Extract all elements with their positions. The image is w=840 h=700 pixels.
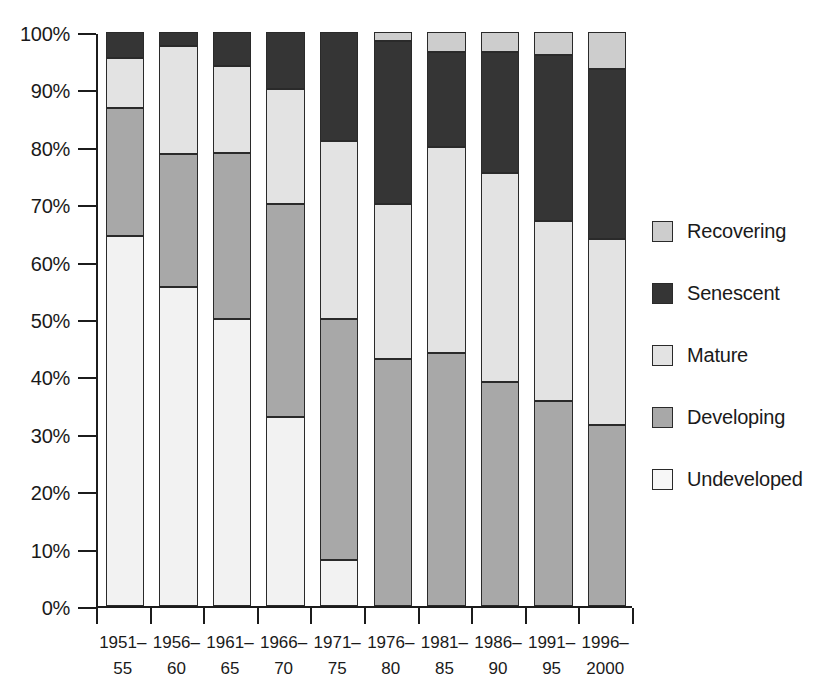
x-axis-tick-mark <box>471 608 473 624</box>
legend-item-label: Senescent <box>687 282 780 305</box>
x-axis-label-line1: 1961– <box>206 630 253 656</box>
legend-item: Senescent <box>652 262 837 324</box>
x-axis-tick-label: 1961–65 <box>206 630 253 683</box>
x-axis-label-line1: 1966– <box>260 630 307 656</box>
stacked-bar-chart: 0%10%20%30%40%50%60%70%80%90%100% 1951–5… <box>0 0 840 700</box>
x-axis-label-line2: 55 <box>99 656 146 682</box>
x-axis-tick-label: 1966–70 <box>260 630 307 683</box>
legend-item-label: Undeveloped <box>687 468 803 491</box>
x-axis-label-line1: 1956– <box>153 630 200 656</box>
x-axis-label-line2: 90 <box>474 656 521 682</box>
legend-swatch-icon <box>652 469 673 490</box>
x-axis-label-line2: 75 <box>314 656 361 682</box>
x-axis-label-line1: 1971– <box>314 630 361 656</box>
legend-item: Undeveloped <box>652 448 837 510</box>
legend-item: Recovering <box>652 200 837 262</box>
x-axis-tick-label: 1986–90 <box>474 630 521 683</box>
x-axis-label-line2: 85 <box>421 656 468 682</box>
x-axis-tick-label: 1981–85 <box>421 630 468 683</box>
x-axis-tick-mark <box>578 608 580 624</box>
legend-swatch-icon <box>652 221 673 242</box>
x-axis-tick-mark <box>203 608 205 624</box>
x-axis-tick-label: 1951–55 <box>99 630 146 683</box>
legend-swatch-icon <box>652 407 673 428</box>
x-axis-tick-mark <box>525 608 527 624</box>
x-axis-label-line2: 2000 <box>582 656 629 682</box>
x-axis-label-line1: 1996– <box>582 630 629 656</box>
x-axis-tick-label: 1996–2000 <box>582 630 629 683</box>
x-axis-label-line1: 1981– <box>421 630 468 656</box>
chart-legend: RecoveringSenescentMatureDevelopingUndev… <box>652 200 837 510</box>
x-axis-tick-mark <box>150 608 152 624</box>
legend-swatch-icon <box>652 345 673 366</box>
x-axis-tick-mark <box>364 608 366 624</box>
x-axis-tick-mark <box>418 608 420 624</box>
x-axis-tick-mark <box>310 608 312 624</box>
x-axis-label-line2: 65 <box>206 656 253 682</box>
x-axis-label-line2: 80 <box>367 656 414 682</box>
legend-item: Mature <box>652 324 837 386</box>
legend-item-label: Developing <box>687 406 785 429</box>
legend-item-label: Recovering <box>687 220 786 243</box>
x-axis-tick-label: 1991–95 <box>528 630 575 683</box>
x-axis-tick-label: 1971–75 <box>314 630 361 683</box>
x-axis-tick-mark <box>632 608 634 624</box>
x-axis-label-line2: 60 <box>153 656 200 682</box>
x-axis-label-line1: 1986– <box>474 630 521 656</box>
x-axis-label-line1: 1976– <box>367 630 414 656</box>
legend-item: Developing <box>652 386 837 448</box>
legend-swatch-icon <box>652 283 673 304</box>
legend-item-label: Mature <box>687 344 748 367</box>
x-axis-tick-label: 1976–80 <box>367 630 414 683</box>
x-axis-tick-label: 1956–60 <box>153 630 200 683</box>
x-axis-label-line1: 1951– <box>99 630 146 656</box>
x-axis-label-line2: 70 <box>260 656 307 682</box>
x-axis-tick-mark <box>96 608 98 624</box>
x-axis-label-line1: 1991– <box>528 630 575 656</box>
x-axis-label-line2: 95 <box>528 656 575 682</box>
x-axis-tick-mark <box>257 608 259 624</box>
